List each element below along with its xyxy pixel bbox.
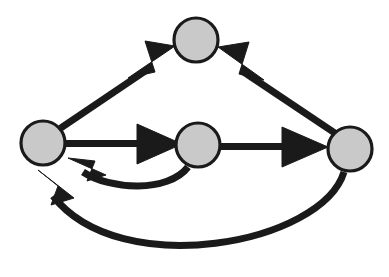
node-right[interactable]: [328, 127, 372, 171]
directed-graph-svg: [0, 0, 389, 277]
edge-right-to-top-arrowhead-icon: [218, 42, 264, 80]
edge-right-to-top-line: [243, 72, 337, 135]
edge-middle-to-right[interactable]: [220, 127, 328, 167]
diagram-canvas: [0, 0, 389, 277]
node-middle[interactable]: [176, 123, 220, 167]
edge-right-to-left[interactable]: [38, 170, 344, 245]
edge-right-to-top[interactable]: [218, 42, 337, 134]
edge-right-to-left-arrowhead-icon: [38, 170, 74, 205]
node-right-circle: [328, 127, 372, 171]
edge-middle-to-left[interactable]: [68, 158, 188, 186]
node-middle-circle: [176, 123, 220, 167]
node-top[interactable]: [174, 18, 218, 62]
edge-left-to-top-arrowhead-icon: [128, 41, 175, 78]
node-left-circle: [21, 121, 65, 165]
edge-middle-to-right-arrowhead-icon: [282, 127, 328, 167]
edge-left-to-middle[interactable]: [65, 124, 182, 164]
node-left[interactable]: [21, 121, 65, 165]
node-top-circle: [174, 18, 218, 62]
edge-left-to-top[interactable]: [61, 41, 175, 128]
edge-right-to-left-curve: [53, 172, 344, 245]
